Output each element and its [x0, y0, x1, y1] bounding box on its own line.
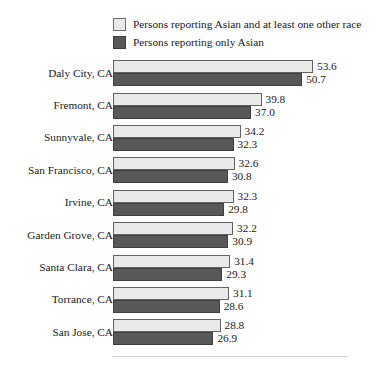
- axis-baseline: [113, 356, 347, 357]
- bar-asian-and-other: [113, 319, 221, 332]
- bar-group: Irvine, CA32.329.8: [0, 187, 380, 219]
- bar-value-label: 26.9: [217, 332, 237, 345]
- bar-group: Daly City, CA53.650.7: [0, 57, 380, 89]
- bar-row: 32.3: [113, 138, 264, 151]
- legend-swatch-icon-light: [113, 18, 126, 31]
- bar-value-label: 39.8: [266, 93, 286, 106]
- bar-group: Fremont, CA39.837.0: [0, 89, 380, 121]
- bar-asian-and-other: [113, 255, 230, 268]
- bar-value-label: 28.8: [225, 319, 245, 332]
- bar-value-label: 30.8: [232, 170, 252, 183]
- bar-only-asian: [113, 106, 251, 119]
- bar-value-label: 32.3: [238, 138, 258, 151]
- bar-group: Torrance, CA31.128.6: [0, 284, 380, 316]
- category-label: Daly City, CA: [0, 67, 113, 80]
- bar-only-asian: [113, 170, 228, 183]
- bar-row: 32.6: [113, 157, 258, 170]
- category-label: Torrance, CA: [0, 293, 113, 306]
- legend-label-only-asian: Persons reporting only Asian: [133, 36, 264, 49]
- bar-value-label: 31.4: [234, 255, 254, 268]
- bar-row: 31.4: [113, 255, 254, 268]
- bar-pair: 32.630.8: [113, 154, 258, 186]
- bar-group: Santa Clara, CA31.429.3: [0, 251, 380, 283]
- bar-pair: 31.128.6: [113, 284, 253, 316]
- bar-row: 34.2: [113, 125, 264, 138]
- bar-pair: 34.232.3: [113, 122, 264, 154]
- bar-only-asian: [113, 203, 224, 216]
- bar-row: 50.7: [113, 73, 337, 86]
- bar-asian-and-other: [113, 287, 229, 300]
- bar-value-label: 50.7: [306, 73, 326, 86]
- bar-pair: 32.329.8: [113, 187, 257, 219]
- bar-value-label: 30.9: [232, 235, 252, 248]
- category-label: Garden Grove, CA: [0, 229, 113, 242]
- bar-asian-and-other: [113, 190, 234, 203]
- bar-row: 32.2: [113, 222, 257, 235]
- bar-asian-and-other: [113, 60, 313, 73]
- bar-row: 28.6: [113, 300, 253, 313]
- category-label: Fremont, CA: [0, 99, 113, 112]
- bar-row: 29.8: [113, 203, 257, 216]
- bar-pair: 31.429.3: [113, 251, 254, 283]
- bar-row: 28.8: [113, 319, 244, 332]
- bar-row: 30.8: [113, 170, 258, 183]
- bar-value-label: 32.2: [237, 222, 257, 235]
- bar-chart: Persons reporting Asian and at least one…: [0, 0, 380, 371]
- bar-value-label: 34.2: [245, 125, 265, 138]
- bar-row: 53.6: [113, 60, 337, 73]
- bar-only-asian: [113, 268, 222, 281]
- bar-row: 29.3: [113, 268, 254, 281]
- bar-value-label: 29.8: [228, 203, 248, 216]
- bar-only-asian: [113, 235, 228, 248]
- bar-asian-and-other: [113, 93, 262, 106]
- bar-row: 26.9: [113, 332, 244, 345]
- category-label: San Jose, CA: [0, 326, 113, 339]
- legend-item-asian-and-other: Persons reporting Asian and at least one…: [113, 17, 361, 32]
- bar-row: 30.9: [113, 235, 257, 248]
- bar-asian-and-other: [113, 125, 241, 138]
- bar-only-asian: [113, 300, 220, 313]
- bar-group: Sunnyvale, CA34.232.3: [0, 122, 380, 154]
- bar-pair: 53.650.7: [113, 57, 337, 89]
- bar-pair: 32.230.9: [113, 219, 257, 251]
- bar-group: Garden Grove, CA32.230.9: [0, 219, 380, 251]
- bar-only-asian: [113, 332, 213, 345]
- bar-value-label: 53.6: [317, 60, 337, 73]
- bar-group: San Francisco, CA32.630.8: [0, 154, 380, 186]
- legend-item-only-asian: Persons reporting only Asian: [113, 35, 361, 50]
- bar-value-label: 31.1: [233, 287, 253, 300]
- category-label: San Francisco, CA: [0, 164, 113, 177]
- bar-value-label: 32.6: [239, 157, 259, 170]
- bar-row: 31.1: [113, 287, 253, 300]
- bar-value-label: 37.0: [255, 106, 275, 119]
- plot-area: Daly City, CA53.650.7Fremont, CA39.837.0…: [0, 57, 380, 357]
- bar-asian-and-other: [113, 157, 235, 170]
- bar-value-label: 28.6: [224, 300, 244, 313]
- category-label: Irvine, CA: [0, 196, 113, 209]
- bar-only-asian: [113, 73, 302, 86]
- bar-row: 32.3: [113, 190, 257, 203]
- bar-row: 37.0: [113, 106, 285, 119]
- bar-value-label: 32.3: [238, 190, 258, 203]
- legend-label-asian-and-other: Persons reporting Asian and at least one…: [133, 18, 361, 31]
- bar-pair: 39.837.0: [113, 89, 285, 121]
- bar-row: 39.8: [113, 93, 285, 106]
- category-label: Sunnyvale, CA: [0, 131, 113, 144]
- bar-only-asian: [113, 138, 234, 151]
- category-label: Santa Clara, CA: [0, 261, 113, 274]
- bar-asian-and-other: [113, 222, 233, 235]
- chart-legend: Persons reporting Asian and at least one…: [113, 17, 361, 50]
- bar-group: San Jose, CA28.826.9: [0, 316, 380, 348]
- bar-pair: 28.826.9: [113, 316, 244, 348]
- legend-swatch-icon-dark: [113, 36, 126, 49]
- bar-value-label: 29.3: [226, 268, 246, 281]
